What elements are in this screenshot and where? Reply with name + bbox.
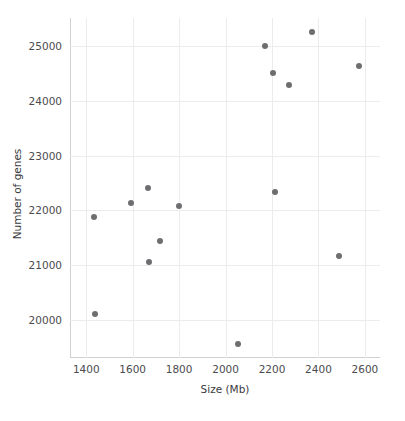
- y-tick-label: 25000: [29, 40, 62, 52]
- y-tick-label: 20000: [29, 314, 62, 326]
- y-axis-spine: [70, 18, 71, 358]
- gridline-x-1400: [86, 18, 87, 358]
- gridline-x-1800: [179, 18, 180, 358]
- data-point: [157, 238, 163, 244]
- gridline-x-2400: [318, 18, 319, 358]
- plot-area: [70, 18, 380, 358]
- x-tick-label: 1600: [119, 363, 146, 375]
- x-axis-label: Size (Mb): [70, 383, 380, 395]
- gridline-y-23000: [70, 156, 380, 157]
- x-tick-label: 2600: [352, 363, 379, 375]
- data-point: [356, 63, 362, 69]
- y-axis-tick-labels: 200002100022000230002400025000: [0, 0, 62, 421]
- data-point: [286, 82, 292, 88]
- x-tick-label: 2000: [212, 363, 239, 375]
- gridline-y-21000: [70, 265, 380, 266]
- y-tick-label: 22000: [29, 204, 62, 216]
- y-tick-label: 23000: [29, 150, 62, 162]
- data-point: [145, 185, 151, 191]
- data-point: [92, 311, 98, 317]
- data-point: [270, 70, 276, 76]
- data-point: [146, 259, 152, 265]
- gridline-y-22000: [70, 210, 380, 211]
- data-point: [336, 253, 342, 259]
- y-tick-label: 24000: [29, 95, 62, 107]
- x-tick-label: 2400: [305, 363, 332, 375]
- data-point: [235, 341, 241, 347]
- scatter-plot-figure: 200002100022000230002400025000 140016001…: [0, 0, 405, 421]
- data-point: [176, 203, 182, 209]
- x-tick-label: 2200: [259, 363, 286, 375]
- x-tick-label: 1400: [73, 363, 100, 375]
- y-tick-label: 21000: [29, 259, 62, 271]
- gridline-y-25000: [70, 46, 380, 47]
- x-tick-label: 1800: [166, 363, 193, 375]
- data-point: [272, 189, 278, 195]
- gridline-x-2000: [226, 18, 227, 358]
- gridline-x-1600: [133, 18, 134, 358]
- gridline-y-20000: [70, 320, 380, 321]
- y-axis-label: Number of genes: [11, 114, 23, 274]
- gridline-y-24000: [70, 101, 380, 102]
- data-point: [309, 29, 315, 35]
- data-point: [128, 200, 134, 206]
- data-point: [262, 43, 268, 49]
- data-point: [91, 214, 97, 220]
- gridline-x-2600: [365, 18, 366, 358]
